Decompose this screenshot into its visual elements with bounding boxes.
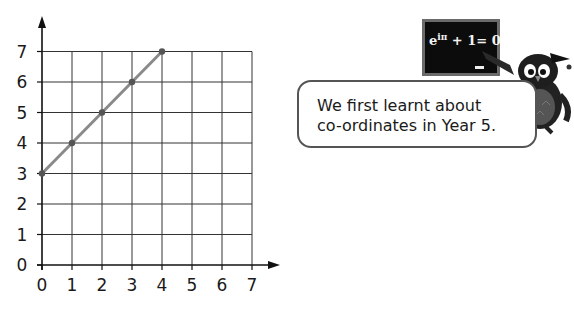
x-tick-label: 1 [67, 275, 78, 295]
speech-bubble: We first learnt about co-ordinates in Ye… [297, 80, 537, 148]
y-tick-label: 3 [17, 164, 28, 184]
tick-labels: 0123456701234567 [17, 42, 258, 296]
speech-bubble-text: We first learnt about co-ordinates in Ye… [317, 96, 496, 136]
y-tick-label: 7 [17, 42, 28, 62]
y-tick-label: 6 [17, 72, 28, 92]
grid-lines [42, 52, 252, 266]
coordinate-grid-chart: 0123456701234567 [0, 0, 290, 310]
y-tick-label: 4 [17, 133, 28, 153]
x-tick-label: 5 [187, 275, 198, 295]
x-tick-label: 4 [157, 275, 168, 295]
x-tick-label: 6 [217, 275, 228, 295]
data-point [159, 48, 165, 54]
x-axis-arrow-icon [268, 261, 280, 269]
x-tick-label: 2 [97, 275, 108, 295]
y-axis-arrow-icon [38, 16, 46, 28]
data-point [39, 170, 45, 176]
y-tick-label: 1 [17, 225, 28, 245]
x-tick-label: 3 [127, 275, 138, 295]
x-tick-label: 7 [247, 275, 258, 295]
y-tick-label: 2 [17, 194, 28, 214]
data-point [99, 109, 105, 115]
y-tick-label: 0 [17, 255, 28, 275]
data-point [129, 79, 135, 85]
y-tick-label: 5 [17, 103, 28, 123]
x-tick-label: 0 [37, 275, 48, 295]
data-point [69, 140, 75, 146]
